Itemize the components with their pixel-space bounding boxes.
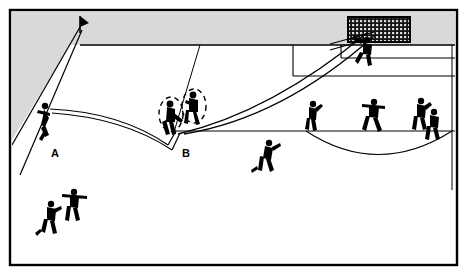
label-b: B — [182, 147, 190, 159]
figure-border — [10, 10, 457, 265]
soccer-tactical-diagram: A B — [0, 0, 467, 275]
label-a: A — [51, 147, 59, 159]
diagram-canvas: A B — [0, 0, 467, 275]
